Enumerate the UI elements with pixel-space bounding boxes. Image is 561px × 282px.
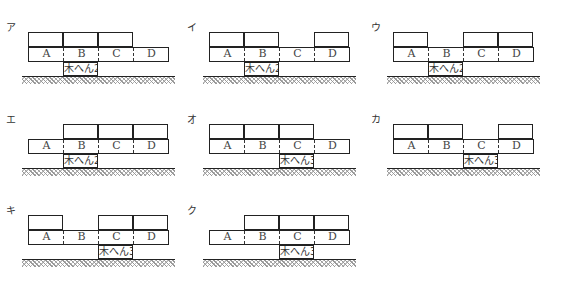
- cell-b: B: [429, 140, 464, 153]
- cell-divider: [244, 231, 245, 244]
- panel-u: ウ ABCD木へん2: [365, 0, 550, 92]
- top-block-d: [314, 32, 349, 47]
- top-block-b: [244, 215, 279, 230]
- cell-b: B: [245, 231, 280, 244]
- cell-divider: [314, 231, 315, 244]
- cell-c: C: [464, 140, 499, 153]
- cell-a: A: [29, 231, 64, 244]
- panel-label: オ: [187, 111, 197, 126]
- support-block: 木へん3: [463, 154, 498, 168]
- support-block: 木へん2: [63, 154, 98, 168]
- cell-divider: [279, 48, 280, 61]
- panel-o: オ ABCD木へん3: [181, 92, 366, 184]
- top-block-d: [133, 124, 168, 139]
- cell-d: D: [315, 140, 350, 153]
- cell-c: C: [99, 48, 134, 61]
- top-block-c: [98, 215, 133, 230]
- cell-c: C: [280, 140, 315, 153]
- cell-divider: [98, 48, 99, 61]
- panel-ku: ク ABCD木へん3: [181, 183, 366, 275]
- cell-divider: [98, 231, 99, 244]
- panel-i: イ ABCD木へん2: [181, 0, 366, 92]
- ground: [203, 76, 356, 84]
- cell-a: A: [394, 140, 429, 153]
- cell-d: D: [499, 48, 534, 61]
- cell-divider: [279, 140, 280, 153]
- ground: [203, 168, 356, 176]
- cell-divider: [314, 140, 315, 153]
- cell-b: B: [64, 140, 99, 153]
- support-block: 木へん2: [244, 62, 279, 76]
- panel-ki: キ ABCD木へん3: [0, 183, 185, 275]
- panel-e: エ ABCD木へん2: [0, 92, 185, 184]
- top-block-b: [63, 32, 98, 47]
- cell-c: C: [280, 231, 315, 244]
- top-block-d: [498, 32, 533, 47]
- cell-divider: [428, 48, 429, 61]
- cell-a: A: [210, 140, 245, 153]
- ground: [22, 168, 175, 176]
- support-block: 木へん2: [428, 62, 463, 76]
- cell-divider: [63, 48, 64, 61]
- top-block-c: [98, 124, 133, 139]
- cell-a: A: [394, 48, 429, 61]
- panel-label: イ: [187, 19, 197, 34]
- base-row: ABCD: [28, 139, 169, 154]
- top-block-a: [209, 32, 244, 47]
- panel-label: エ: [6, 111, 16, 126]
- top-block-d: [314, 215, 349, 230]
- cell-divider: [133, 140, 134, 153]
- cell-c: C: [99, 140, 134, 153]
- top-block-b: [244, 32, 279, 47]
- cell-b: B: [429, 48, 464, 61]
- cell-d: D: [134, 140, 169, 153]
- cell-divider: [244, 48, 245, 61]
- cell-divider: [244, 140, 245, 153]
- cell-divider: [498, 48, 499, 61]
- top-block-c: [463, 32, 498, 47]
- cell-divider: [314, 48, 315, 61]
- base-row: ABCD: [209, 139, 350, 154]
- panel-label: ウ: [371, 19, 381, 34]
- cell-a: A: [29, 48, 64, 61]
- top-block-d: [133, 215, 168, 230]
- top-block-b: [244, 124, 279, 139]
- top-block-a: [28, 215, 63, 230]
- top-block-c: [279, 215, 314, 230]
- cell-b: B: [245, 140, 280, 153]
- cell-divider: [63, 231, 64, 244]
- top-block-b: [63, 124, 98, 139]
- cell-d: D: [499, 140, 534, 153]
- cell-divider: [428, 140, 429, 153]
- top-block-a: [28, 32, 63, 47]
- cell-divider: [133, 48, 134, 61]
- top-block-c: [279, 124, 314, 139]
- panel-a: ア ABCD木へん2: [0, 0, 185, 92]
- cell-b: B: [64, 48, 99, 61]
- ground: [22, 259, 175, 267]
- cell-c: C: [99, 231, 134, 244]
- cell-d: D: [134, 231, 169, 244]
- ground: [387, 76, 540, 84]
- top-block-a: [393, 32, 428, 47]
- cell-a: A: [210, 231, 245, 244]
- top-block-b: [428, 124, 463, 139]
- support-block: 木へん2: [63, 62, 98, 76]
- cell-a: A: [210, 48, 245, 61]
- panel-label: キ: [6, 202, 16, 217]
- cell-a: A: [29, 140, 64, 153]
- ground: [22, 76, 175, 84]
- cell-divider: [463, 140, 464, 153]
- cell-d: D: [315, 231, 350, 244]
- cell-b: B: [245, 48, 280, 61]
- support-block: 木へん3: [98, 245, 133, 259]
- cell-divider: [133, 231, 134, 244]
- cell-divider: [279, 231, 280, 244]
- panel-label: カ: [371, 111, 381, 126]
- top-block-a: [209, 124, 244, 139]
- cell-divider: [463, 48, 464, 61]
- top-block-c: [98, 32, 133, 47]
- panel-ka: カ ABCD木へん3: [365, 92, 550, 184]
- base-row: ABCD: [28, 47, 169, 62]
- panel-label: ク: [187, 202, 197, 217]
